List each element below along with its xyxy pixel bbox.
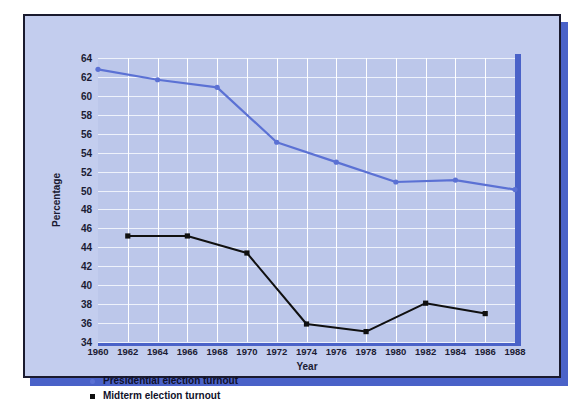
legend-item-presidential: Presidential election turnout [87, 373, 238, 388]
y-tick-label: 42 [81, 261, 92, 272]
x-axis-title: Year [296, 361, 317, 372]
x-tick-label: 1964 [147, 346, 168, 357]
data-point-marker [334, 160, 339, 165]
x-tick-label: 1974 [296, 346, 317, 357]
x-tick-label: 1980 [385, 346, 406, 357]
dot-marker-icon [87, 375, 98, 386]
series-lines [98, 58, 515, 342]
data-point-marker [274, 140, 279, 145]
data-point-marker [483, 311, 488, 316]
x-tick-label: 1984 [445, 346, 466, 357]
y-tick-label: 52 [81, 166, 92, 177]
legend-item-midterm: Midterm election turnout [87, 388, 238, 403]
y-tick-label: 48 [81, 204, 92, 215]
chart-legend: Presidential election turnout Midterm el… [87, 373, 238, 403]
x-tick-label: 1988 [504, 346, 525, 357]
y-tick-label: 40 [81, 280, 92, 291]
x-tick-label: 1968 [207, 346, 228, 357]
x-tick-label: 1982 [415, 346, 436, 357]
data-point-marker [185, 233, 190, 238]
data-point-marker [512, 187, 517, 192]
axis-line-right [515, 54, 521, 346]
series-line-midterm [128, 236, 485, 332]
plot-area: 34363840424446485052545658606264 1960196… [98, 58, 515, 342]
x-tick-label: 1966 [177, 346, 198, 357]
gridline [98, 342, 515, 343]
y-tick-label: 60 [81, 90, 92, 101]
x-tick-label: 1986 [475, 346, 496, 357]
legend-label-presidential: Presidential election turnout [103, 375, 238, 386]
x-tick-label: 1978 [355, 346, 376, 357]
data-point-marker [393, 179, 398, 184]
data-point-marker [423, 301, 428, 306]
y-tick-label: 38 [81, 299, 92, 310]
chart-card: Percentage Year 343638404244464850525456… [23, 14, 561, 378]
data-point-marker [304, 321, 309, 326]
y-tick-label: 58 [81, 109, 92, 120]
y-tick-label: 62 [81, 71, 92, 82]
x-tick-label: 1976 [326, 346, 347, 357]
y-tick-label: 44 [81, 242, 92, 253]
x-tick-label: 1970 [236, 346, 257, 357]
data-point-marker [244, 250, 249, 255]
x-tick-label: 1972 [266, 346, 287, 357]
data-point-marker [95, 67, 100, 72]
data-point-marker [363, 329, 368, 334]
legend-label-midterm: Midterm election turnout [103, 390, 220, 401]
square-marker-icon [87, 390, 98, 401]
chart-screenshot: Percentage Year 343638404244464850525456… [0, 0, 575, 403]
x-tick-label: 1960 [87, 346, 108, 357]
series-line-presidential [98, 69, 515, 189]
data-point-marker [155, 77, 160, 82]
data-point-marker [125, 233, 130, 238]
y-tick-label: 54 [81, 147, 92, 158]
y-tick-label: 64 [81, 53, 92, 64]
y-tick-label: 50 [81, 185, 92, 196]
y-tick-label: 36 [81, 318, 92, 329]
data-point-marker [215, 85, 220, 90]
y-tick-label: 46 [81, 223, 92, 234]
y-axis-title: Percentage [51, 173, 62, 227]
y-tick-label: 56 [81, 128, 92, 139]
data-point-marker [453, 178, 458, 183]
x-tick-label: 1962 [117, 346, 138, 357]
